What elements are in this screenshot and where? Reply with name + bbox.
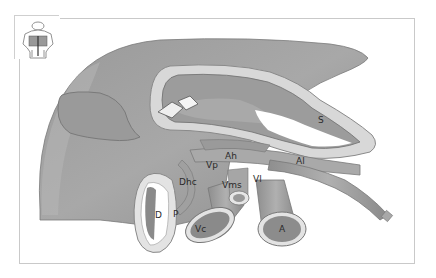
label-vp: Vp (206, 161, 218, 170)
label-a: A (279, 225, 285, 234)
label-dhc: Dhc (179, 178, 197, 187)
label-al: Al (296, 157, 305, 166)
aorta (256, 180, 306, 246)
label-d: D (155, 211, 162, 220)
label-ah: Ah (225, 152, 237, 161)
label-vl: Vl (253, 175, 262, 184)
anatomical-illustration (0, 0, 436, 278)
label-s: S (318, 116, 324, 125)
label-vc: Vc (195, 225, 206, 234)
torso-orientation-icon (23, 22, 53, 58)
label-vms: Vms (222, 181, 242, 190)
label-p: P (173, 210, 178, 219)
